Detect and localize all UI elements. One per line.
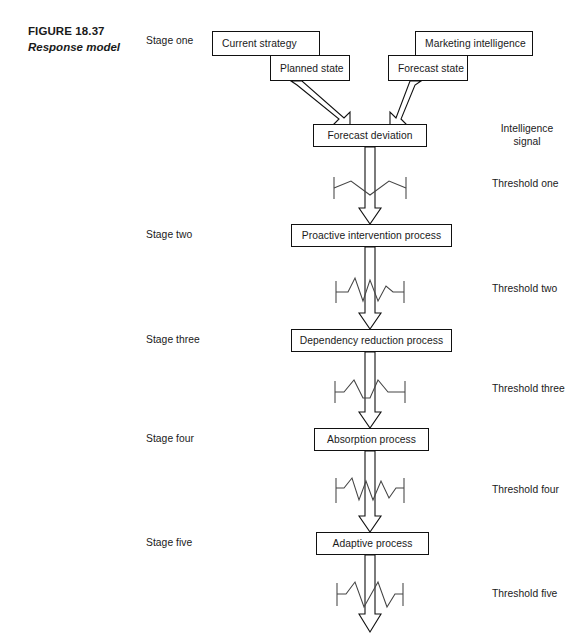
label-threshold-three: Threshold three — [492, 383, 565, 394]
arrow-proactive-to-dependency — [359, 247, 381, 329]
box-proactive-intervention-process[interactable]: Proactive intervention process — [291, 224, 452, 247]
label-intelligence-signal-line1: Intelligence — [492, 122, 562, 135]
box-marketing-intelligence[interactable]: Marketing intelligence — [415, 31, 533, 56]
box-adaptive-process[interactable]: Adaptive process — [316, 532, 429, 555]
arrow-dependency-to-absorption — [359, 352, 381, 428]
arrow-forecast-to-deviation — [390, 81, 421, 130]
box-dependency-reduction-process[interactable]: Dependency reduction process — [291, 329, 452, 352]
arrow-adaptive-to-output — [359, 555, 381, 632]
label-threshold-one: Threshold one — [492, 178, 558, 189]
box-forecast-state[interactable]: Forecast state — [388, 55, 468, 81]
label-intelligence-signal-line2: signal — [492, 135, 562, 148]
box-absorption-process[interactable]: Absorption process — [314, 428, 429, 451]
label-intelligence-signal: Intelligence signal — [492, 122, 562, 148]
label-threshold-two: Threshold two — [492, 283, 557, 294]
arrow-deviation-to-proactive — [359, 147, 381, 224]
box-current-strategy[interactable]: Current strategy — [212, 31, 320, 56]
box-forecast-deviation[interactable]: Forecast deviation — [313, 124, 427, 147]
label-threshold-five: Threshold five — [492, 588, 557, 599]
label-threshold-four: Threshold four — [492, 484, 559, 495]
arrow-planned-to-deviation — [291, 81, 350, 130]
figure-canvas: FIGURE 18.37 Response model Stage one St… — [0, 0, 572, 636]
connectors-overlay — [0, 0, 572, 636]
box-planned-state[interactable]: Planned state — [270, 55, 350, 81]
